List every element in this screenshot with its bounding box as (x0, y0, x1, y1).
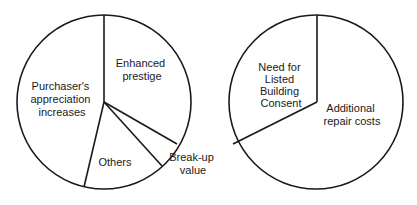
slice-label-listed-building-consent: Need for Listed Building Consent (258, 61, 303, 109)
slice-label-others: Others (98, 156, 132, 168)
slice-label-enhanced-prestige: Enhanced prestige (116, 57, 169, 82)
right-pie-chart: Need for Listed Building Consent Additio… (229, 15, 403, 189)
slice-label-break-up-value: Break-up value (169, 151, 217, 176)
slice-label-additional-repair-costs: Additional repair costs (324, 102, 381, 127)
left-pie-divider-enhanced-breakup (104, 102, 177, 144)
left-pie-chart: Enhanced prestige Purchaser's appreciati… (17, 15, 217, 189)
pie-charts: Enhanced prestige Purchaser's appreciati… (0, 0, 417, 205)
left-pie-divider-others-purchaser (84, 102, 104, 187)
slice-label-purchasers-appreciation: Purchaser's appreciation increases (31, 80, 94, 118)
